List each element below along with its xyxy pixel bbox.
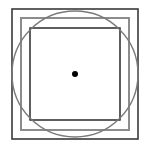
geometry-figure [0, 0, 144, 147]
center-point [72, 71, 78, 77]
diagram-canvas [0, 0, 144, 147]
